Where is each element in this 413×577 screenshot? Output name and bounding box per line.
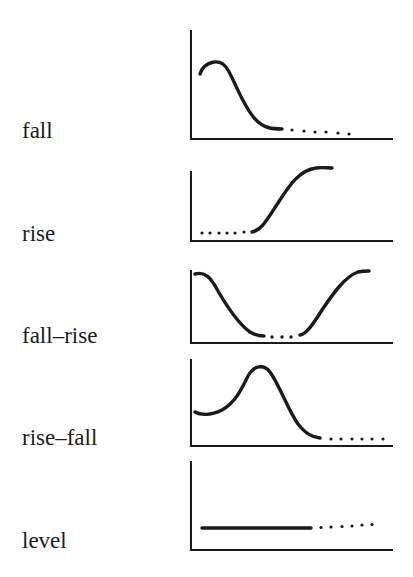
panel-rise-fall [191,359,393,446]
contour-rise [252,168,332,232]
panel-level [191,461,393,550]
intonation-tones-figure: fall rise fall–rise rise–fall level [0,0,413,577]
axis-rise-fall [191,359,393,446]
panel-fall [191,30,393,139]
contour-plots [0,0,413,577]
dotted-continuation-rise-fall [329,437,384,440]
dotted-lead-rise [200,230,245,234]
axis-level [191,461,393,550]
axis-fall [191,30,393,139]
contour-fall-rise-descent [195,273,264,336]
dotted-trough-fall-rise [270,335,292,338]
contour-fall [200,62,282,129]
dotted-continuation-level [319,523,373,529]
axis-fall-rise [191,270,393,343]
dotted-continuation-fall [290,128,350,135]
contour-fall-rise-ascent [300,271,369,335]
panel-rise [191,168,393,241]
panel-fall-rise [191,270,393,343]
contour-rise-fall [195,367,320,438]
